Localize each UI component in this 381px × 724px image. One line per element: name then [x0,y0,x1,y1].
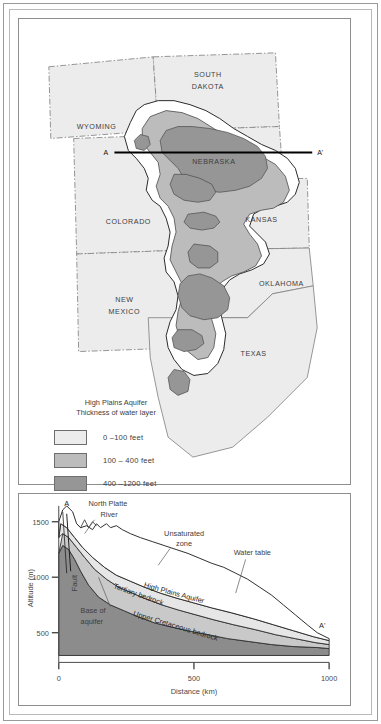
annot-unsaturated-1: Unsaturated [164,529,204,538]
legend-item-100-400: 100 – 400 feet [37,450,227,470]
label-colorado: COLORADO [106,218,151,226]
label-texas: TEXAS [240,350,266,358]
y-tick-label-1500: 1500 [32,518,48,527]
x-tick-label-1000: 1000 [321,674,337,683]
annot-base-of-aquifer-2: aquifer [81,617,104,626]
legend-item-400-1200: 400 –1200 feet [37,473,227,493]
map-legend: High Plains Aquifer Thickness of water l… [37,398,227,496]
y-tick-label-500: 500 [37,629,49,638]
legend-title-line2: Thickness of water layer [41,408,191,418]
label-new-mexico-2: MEXICO [109,308,140,316]
legend-swatch-0-100 [54,430,87,445]
x-axis-title: Distance (km) [171,687,218,696]
legend-label-0-100: 0 –100 feet [103,433,143,442]
annot-north-platte-1: North Platte [89,499,128,508]
x-tick-label-0: 0 [57,674,61,683]
label-south-dakota-1: SOUTH [194,71,222,79]
y-axis-title: Altitude (m) [26,568,35,607]
legend-item-0-100: 0 –100 feet [37,427,227,447]
cross-section-diagram: 1500 1000 500 Altitude (m) 0 500 1000 Di… [19,494,350,705]
legend-swatch-400-1200 [54,476,87,491]
figure-root: A A' WYOMING SOUTH DAKOTA NEBRASKA COLOR… [0,0,381,724]
legend-label-400-1200: 400 –1200 feet [103,479,156,488]
map-panel: A A' WYOMING SOUTH DAKOTA NEBRASKA COLOR… [18,18,351,485]
section-end-label-a: A [64,499,69,508]
legend-rows: 0 –100 feet 100 – 400 feet 400 –1200 fee… [37,427,227,493]
label-new-mexico-1: NEW [115,296,133,304]
legend-label-100-400: 100 – 400 feet [103,456,154,465]
label-oklahoma: OKLAHOMA [259,280,304,288]
section-end-label-a-prime: A' [319,621,326,630]
legend-title-line1: High Plains Aquifer [41,398,191,408]
legend-swatch-100-400 [54,453,87,468]
section-label-a: A [103,149,108,156]
legend-title: High Plains Aquifer Thickness of water l… [41,398,191,418]
section-label-a-prime: A' [317,149,323,156]
label-kansas: KANSAS [245,216,277,224]
cross-section-panel: 1500 1000 500 Altitude (m) 0 500 1000 Di… [18,493,351,706]
annot-north-platte-2: River [101,510,119,519]
annot-base-of-aquifer-1: Base of [81,606,107,615]
annot-unsaturated-2: zone [176,540,192,549]
label-south-dakota-2: DAKOTA [192,83,224,91]
annot-fault: Fault [70,575,79,591]
y-tick-label-1000: 1000 [32,573,48,582]
label-wyoming: WYOMING [77,123,117,131]
annot-water-table: Water table [234,548,271,557]
label-nebraska: NEBRASKA [192,158,235,166]
x-tick-label-500: 500 [188,674,200,683]
